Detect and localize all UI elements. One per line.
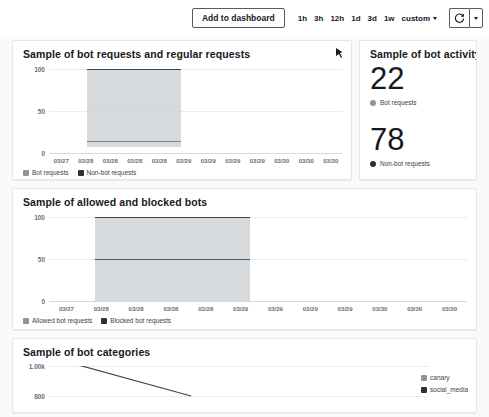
kpi-spacer [370,106,476,123]
series-line-bot [87,141,181,142]
chart-allowed-vs-blocked: 100 50 0 [49,217,467,302]
panel-header: Sample of bot requests and regular reque… [13,41,351,60]
legend-swatch-icon [421,387,427,393]
x-axis-line [49,301,467,302]
legend-item-non-bot-requests[interactable]: Non-bot requests [78,169,137,176]
chart-legend: Bot requests Non-bot requests [13,169,136,176]
y-tick-50: 50 [38,108,45,115]
refresh-icon [454,13,465,24]
x-tick: 03/29 [196,158,221,164]
x-tick: 03/30 [362,306,397,312]
y-tick-800: 800 [34,393,45,400]
legend-label: Non-bot requests [87,169,137,176]
x-tick: 03/29 [223,306,258,312]
top-toolbar: Add to dashboard 1h 3h 12h 1d 3d 1w cust… [0,0,489,36]
x-tick: 03/28 [123,158,148,164]
y-tick-1000: 1.00k [29,363,45,370]
panel-bot-requests: Sample of bot requests and regular reque… [12,40,352,180]
x-tick: 03/28 [98,158,123,164]
chevron-down-icon [433,17,437,20]
x-tick: 03/27 [49,158,74,164]
series-line-total [95,217,250,218]
time-range-1w[interactable]: 1w [384,14,395,23]
kpi-bot-requests-value: 22 [370,62,476,96]
legend-swatch-icon [370,100,376,106]
x-tick: 03/29 [245,158,270,164]
x-tick: 03/30 [294,158,319,164]
chart-legend: Allowed bot requests Blocked bot request… [13,317,171,324]
chart-legend-toggle-icon[interactable] [335,48,343,58]
refresh-button[interactable] [449,8,469,28]
legend-item-bot-requests[interactable]: Bot requests [23,169,69,176]
legend-label: Bot requests [32,169,69,176]
x-tick: 03/29 [258,306,293,312]
x-axis-ticks: 03/27 03/28 03/28 03/28 03/28 03/29 03/2… [49,158,343,164]
kpi-non-bot-requests-label: Non-bot requests [380,160,430,167]
time-range-1d[interactable]: 1d [351,14,360,23]
x-tick: 03/29 [221,158,246,164]
time-range-selector: 1h 3h 12h 1d 3d 1w custom [298,14,437,23]
x-tick: 03/28 [84,306,119,312]
legend-swatch-icon [23,170,29,176]
legend-swatch-icon [421,375,427,381]
dashboard-page: Add to dashboard 1h 3h 12h 1d 3d 1w cust… [0,0,489,417]
panel-bot-categories: Sample of bot categories 1.00k 800 canar… [12,338,477,413]
chart-bot-categories: 1.00k 800 canary social_media [13,358,476,406]
panel-title: Sample of bot requests and regular reque… [13,41,250,60]
refresh-options-button[interactable] [469,8,483,28]
y-tick-100: 100 [34,66,45,73]
x-tick: 03/28 [119,306,154,312]
kpi-group: 22 Bot requests 78 Non-bot requests [360,60,476,167]
panel-title: Sample of allowed and blocked bots [13,189,476,208]
kpi-non-bot-requests-label-row: Non-bot requests [370,160,476,167]
chart-plot-area: 1.00k 800 [49,366,429,402]
chart-plot-wrapper: 1.00k 800 [49,366,429,402]
time-range-1h[interactable]: 1h [298,14,307,23]
x-axis-line [49,153,343,154]
x-tick: 03/29 [293,306,328,312]
x-tick: 03/30 [270,158,295,164]
series-area-band [87,69,181,147]
x-tick: 03/28 [74,158,99,164]
chart-plot-area: 100 50 0 [49,217,467,302]
legend-item-canary[interactable]: canary [421,374,468,381]
chevron-down-icon [474,17,478,20]
y-tick-50: 50 [38,256,45,263]
y-tick-100: 100 [34,214,45,221]
y-tick-0: 0 [41,298,45,305]
legend-swatch-icon [23,318,29,324]
x-tick: 03/28 [153,306,188,312]
legend-label: social_media [430,386,468,393]
refresh-button-group [449,8,483,28]
x-tick: 03/28 [147,158,172,164]
chart-bot-vs-regular: 100 50 0 [49,69,343,154]
series-line-total [87,69,181,70]
kpi-non-bot-requests-value: 78 [370,123,476,157]
time-range-custom[interactable]: custom [402,14,437,23]
x-tick: 03/27 [49,306,84,312]
x-tick: 03/30 [432,306,467,312]
legend-item-allowed-bot-requests[interactable]: Allowed bot requests [23,317,92,324]
panel-bot-activity: Sample of bot activity 22 Bot requests 7… [359,40,477,180]
series-line-canary [49,366,429,402]
legend-label: Blocked bot requests [110,317,171,324]
x-tick: 03/29 [328,306,363,312]
legend-swatch-icon [101,318,107,324]
time-range-3h[interactable]: 3h [314,14,323,23]
legend-label: Allowed bot requests [32,317,92,324]
panel-title: Sample of bot activity [360,41,476,60]
legend-swatch-icon [370,161,376,167]
legend-item-blocked-bot-requests[interactable]: Blocked bot requests [101,317,171,324]
legend-swatch-icon [78,170,84,176]
legend-label: canary [430,374,450,381]
x-axis-ticks: 03/27 03/28 03/28 03/28 03/28 03/29 03/2… [49,306,467,312]
x-tick: 03/30 [319,158,344,164]
add-to-dashboard-button[interactable]: Add to dashboard [192,8,285,28]
time-range-12h[interactable]: 12h [330,14,344,23]
kpi-bot-requests-label-row: Bot requests [370,99,476,106]
x-tick: 03/30 [397,306,432,312]
time-range-3d[interactable]: 3d [368,14,377,23]
x-tick: 03/29 [172,158,197,164]
chart-plot-area: 100 50 0 [49,69,343,154]
legend-item-social-media[interactable]: social_media [421,386,468,393]
